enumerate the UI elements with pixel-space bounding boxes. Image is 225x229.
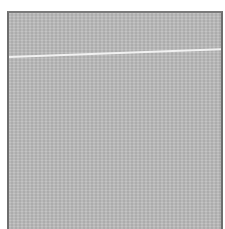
image-canvas (0, 0, 225, 229)
gray-texture-swatch (7, 11, 223, 229)
white-streak-line (9, 48, 223, 57)
